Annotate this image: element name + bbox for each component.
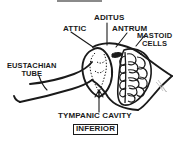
label-mastoid-cells-line2: CELLS (142, 39, 167, 48)
label-aditus: ADITUS (94, 14, 124, 22)
label-tympanic-cavity: TYMPANIC CAVITY (58, 112, 132, 120)
tympanic-cavity (82, 48, 112, 98)
label-eustachian-tube: EUSTACHIAN TUBE (7, 62, 57, 77)
label-inferior: INFERIOR (73, 124, 118, 135)
label-mastoid-cells: MASTOID CELLS (137, 32, 172, 47)
temporal-bone-outline (93, 43, 172, 110)
label-eustachian-tube-line2: TUBE (21, 69, 42, 78)
leader-attic (71, 32, 93, 47)
label-attic: ATTIC (63, 25, 86, 33)
